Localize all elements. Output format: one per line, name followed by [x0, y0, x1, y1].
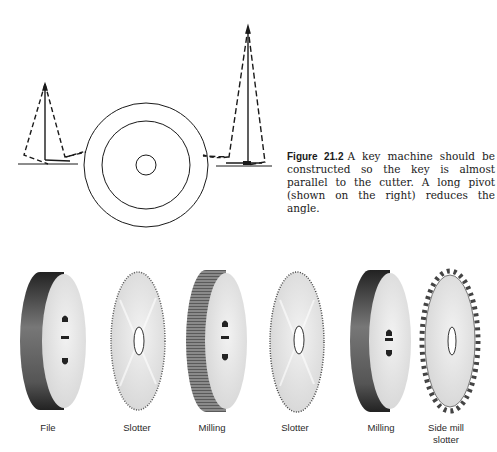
label-slotter-2: Slotter [255, 422, 335, 434]
figure-number: Figure 21.2 [287, 151, 343, 162]
label-side-mill-slotter: Side mill slotter [406, 422, 486, 446]
label-side-mill-line2: slotter [406, 434, 486, 446]
label-milling-1: Milling [172, 422, 252, 434]
cutter-slotter-2 [270, 272, 324, 412]
cutter-wheel [84, 103, 208, 227]
short-pivot-left [18, 84, 86, 164]
cutter-milling-1 [186, 270, 247, 412]
left-connector [66, 151, 86, 157]
cutter-types-illustration [0, 262, 497, 417]
cutter-slotter-1 [111, 272, 165, 410]
label-file: File [8, 422, 88, 434]
label-side-mill-line1: Side mill [406, 422, 486, 434]
long-pivot-right [203, 26, 272, 166]
cutter-milling-2 [350, 270, 411, 412]
cutter-side-mill-slotter [422, 271, 478, 411]
label-slotter-1: Slotter [97, 422, 177, 434]
figure-caption: Figure 21.2A key machine should be const… [287, 150, 495, 215]
cutter-file [20, 272, 86, 410]
